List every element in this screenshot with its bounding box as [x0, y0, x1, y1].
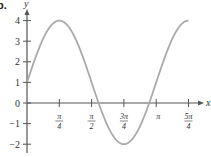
y-tick-label: −2: [9, 139, 20, 150]
x-tick-label: π4: [55, 112, 63, 131]
y-tick-label: 0: [15, 98, 20, 109]
svg-text:π: π: [156, 112, 161, 121]
y-tick-label: −1: [9, 118, 20, 129]
y-axis-arrow-icon: [25, 9, 30, 15]
svg-text:4: 4: [187, 122, 191, 131]
x-ticks: π4π23π4π5π4: [55, 99, 193, 131]
y-tick-label: 3: [15, 36, 20, 47]
y-ticks: 43210−1−2: [9, 15, 31, 150]
y-tick-label: 1: [15, 77, 20, 88]
svg-text:π: π: [90, 112, 95, 121]
x-tick-label: 3π4: [119, 112, 129, 131]
svg-text:5π: 5π: [184, 112, 193, 121]
x-tick-label: π: [156, 112, 161, 121]
x-axis-arrow-icon: [198, 101, 204, 106]
svg-text:3π: 3π: [119, 112, 129, 121]
problem-label: b.: [0, 0, 7, 11]
y-tick-label: 4: [15, 15, 20, 26]
y-tick-label: 2: [15, 56, 20, 67]
svg-text:4: 4: [122, 122, 126, 131]
curve: [27, 21, 189, 145]
x-tick-label: 5π4: [184, 112, 193, 131]
sine-chart: b. xy 43210−1−2 π4π23π4π5π4: [0, 0, 211, 157]
svg-text:2: 2: [90, 122, 94, 131]
svg-text:π: π: [57, 112, 62, 121]
x-axis-label: x: [205, 97, 211, 108]
x-tick-label: π2: [88, 112, 96, 131]
y-axis-label: y: [23, 0, 29, 9]
svg-text:4: 4: [57, 122, 61, 131]
sine-curve: [27, 21, 189, 145]
